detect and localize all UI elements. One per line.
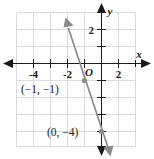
point-label-0-minus4: (0, −4) [47, 126, 79, 139]
x-tick-label-minus4: -4 [29, 68, 39, 80]
x-axis-label: x [135, 48, 142, 60]
point-label-minus1-minus1: (−1, −1) [21, 83, 59, 96]
data-point-0-minus4 [99, 129, 104, 134]
y-axis-arrow-up [97, 3, 106, 13]
coordinate-plane-figure: -4 -2 2 2 O x y (−1, −1) (0, −4) [0, 0, 154, 159]
x-tick-label-2: 2 [116, 68, 122, 80]
origin-label: O [85, 66, 93, 78]
y-axis-label: y [106, 5, 113, 17]
x-tick-label-minus2: -2 [63, 68, 73, 80]
y-tick-label-2: 2 [89, 24, 95, 36]
data-point-minus1-minus1 [82, 78, 87, 83]
x-axis-arrow-right [141, 59, 151, 68]
x-axis-arrow-left [3, 59, 13, 68]
graph-canvas: -4 -2 2 2 O x y (−1, −1) (0, −4) [0, 0, 154, 159]
x-axis [3, 59, 151, 68]
line-arrow-top [64, 18, 74, 28]
